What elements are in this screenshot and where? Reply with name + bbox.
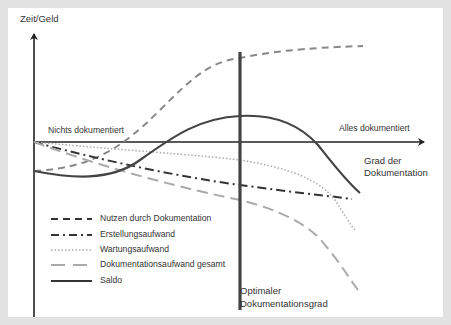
x-axis-label-line1: Grad der	[364, 155, 402, 167]
optimum-label-line2: Dokumentationsgrad	[240, 298, 328, 310]
curve-erstellungsaufwand	[34, 142, 352, 199]
x-axis-label-line2: Dokumentation	[364, 167, 428, 179]
right-annotation: Alles dokumentiert	[339, 123, 410, 134]
curve-nutzen	[34, 46, 363, 171]
legend-label-wartungsaufwand: Wartungsaufwand	[100, 244, 169, 255]
left-annotation: Nichts dokumentiert	[48, 125, 124, 136]
legend-label-erstellungsaufwand: Erstellungsaufwand	[100, 229, 175, 240]
optimum-label-line1: Optimaler	[240, 285, 281, 297]
y-axis-label: Zeit/Geld	[20, 13, 59, 25]
legend-label-gesamt: Dokumentationsaufwand gesamt	[100, 259, 225, 270]
legend-label-saldo: Saldo	[100, 275, 122, 286]
legend-label-nutzen: Nutzen durch Dokumentation	[100, 213, 211, 224]
legend	[51, 219, 92, 281]
